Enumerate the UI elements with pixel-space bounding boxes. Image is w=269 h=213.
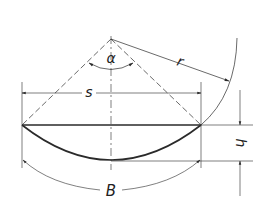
segment-arc bbox=[22, 125, 201, 160]
arc-length-b-label: B bbox=[106, 182, 116, 200]
height-h-label: h bbox=[233, 139, 249, 148]
angle-alpha-label: α bbox=[106, 50, 116, 66]
arc-b-dimension-left bbox=[23, 160, 100, 190]
radius-dashed-right bbox=[111, 39, 201, 125]
radius-dashed-left bbox=[22, 39, 111, 125]
radius-r-label: r bbox=[175, 53, 187, 70]
radius-r-line bbox=[111, 39, 229, 81]
circular-segment-diagram: α r s h B bbox=[0, 0, 269, 213]
outer-circle-arc bbox=[201, 38, 237, 125]
chord-s-label: s bbox=[85, 84, 92, 100]
arc-b-dimension-right bbox=[122, 160, 200, 190]
